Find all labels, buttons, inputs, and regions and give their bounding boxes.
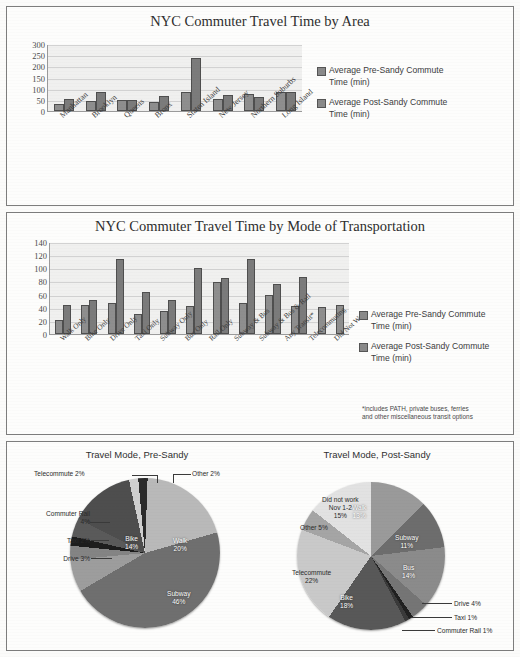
ytick-chart1-300: 300 — [32, 40, 45, 50]
pie-callout-taxi-pre: Taxi 2% — [35, 537, 90, 545]
pie-slice-label-subway-pre: Subway 46% — [167, 590, 190, 606]
ytick-chart2-120: 120 — [34, 251, 47, 261]
pie-slice-label-telecommute-post: Telecommute 22% — [292, 569, 331, 585]
legend-label-pre-sandy: Average Pre-Sandy Commute Time (min) — [329, 65, 457, 88]
legend-swatch-icon — [317, 67, 326, 76]
chart-title-mode: NYC Commuter Travel Time by Mode of Tran… — [7, 218, 513, 235]
legend-swatch-icon — [359, 343, 368, 352]
document-page: NYC Commuter Travel Time by Area 300 250… — [0, 0, 520, 657]
ytick-chart2-80: 80 — [39, 277, 48, 287]
legend-item-post-sandy: Average Post-Sandy Commute Time (min) — [359, 341, 499, 364]
xaxis-labels-chart2: Walk OnlyBike OnlyDrive OnlyTaxi OnlySub… — [50, 334, 349, 404]
xaxis-labels-chart1: ManhattanBrooklynQueensBronxStaten Islan… — [48, 111, 302, 171]
bar-group — [55, 243, 71, 334]
pie-callout-other-pre: Other 2% — [192, 470, 220, 478]
ytick-chart1-150: 150 — [32, 74, 45, 84]
ytick-chart1-250: 250 — [32, 51, 45, 61]
legend-label-post-sandy: Average Post-Sandy Commute Time (min) — [371, 341, 499, 364]
pie-slice-label-bus-post: Bus 14% — [402, 564, 415, 580]
ytick-chart2-140: 140 — [34, 238, 47, 248]
pie-slice-label-subway-post: Subway 11% — [395, 534, 418, 550]
pie-slice-label-other-post: Other 5% — [300, 524, 328, 532]
ytick-chart1-0: 0 — [41, 107, 45, 117]
pie-callout-taxi-post: Taxi 1% — [454, 614, 477, 622]
pie-slice-label-didnotwork-post: Did not work Nov 1-2 15% — [322, 496, 359, 521]
pie-title-pre-sandy: Travel Mode, Pre-Sandy — [37, 449, 237, 460]
ytick-chart2-100: 100 — [34, 264, 47, 274]
legend-swatch-icon — [359, 311, 368, 320]
legend-chart2: Average Pre-Sandy Commute Time (min) Ave… — [359, 309, 499, 373]
pie-callout-commuter-rail-post: Commuter Rail 1% — [437, 627, 492, 635]
ytick-chart1-50: 50 — [37, 96, 46, 106]
footnote-chart2: *includes PATH, private buses, ferries a… — [362, 405, 473, 422]
pie-callout-drive-post: Drive 4% — [454, 600, 481, 608]
legend-label-pre-sandy: Average Pre-Sandy Commute Time (min) — [371, 309, 499, 332]
footnote-line-1: *includes PATH, private buses, ferries — [362, 405, 473, 413]
chart-panel-travel-time-by-mode: NYC Commuter Travel Time by Mode of Tran… — [6, 212, 514, 435]
pie-slice-label-walk-pre: Walk 20% — [173, 537, 187, 553]
chart-title-area: NYC Commuter Travel Time by Area — [7, 13, 513, 30]
footnote-line-2: and other miscellaneous transit options — [362, 413, 473, 421]
ytick-chart2-0: 0 — [43, 330, 47, 340]
chart-panel-travel-time-by-area: NYC Commuter Travel Time by Area 300 250… — [6, 6, 514, 206]
pie-callout-drive-pre: Drive 3% — [27, 555, 90, 563]
pie-callout-telecommute-pre: Telecommute 2% — [34, 470, 85, 478]
ytick-chart2-20: 20 — [39, 317, 48, 327]
plot-area-chart2: 140 120 100 80 60 40 20 0 Walk OnlyBike … — [49, 243, 349, 335]
legend-chart1: Average Pre-Sandy Commute Time (min) Ave… — [317, 65, 457, 129]
ytick-chart1-100: 100 — [32, 85, 45, 95]
pie-title-post-sandy: Travel Mode, Post-Sandy — [277, 449, 477, 460]
legend-item-pre-sandy: Average Pre-Sandy Commute Time (min) — [359, 309, 499, 332]
chart-panel-travel-mode-pies: Travel Mode, Pre-Sandy Travel Mode, Post… — [6, 441, 514, 651]
ytick-chart1-200: 200 — [32, 62, 45, 72]
legend-item-post-sandy: Average Post-Sandy Commute Time (min) — [317, 97, 457, 120]
pie-chart-post-sandy — [297, 482, 445, 630]
pie-slice-label-bike-pre: Bike 14% — [125, 535, 138, 551]
plot-area-chart1: 300 250 200 150 100 50 0 ManhattanBrookl… — [47, 45, 302, 112]
pie-slice-label-bike-post: Bike 18% — [340, 594, 353, 610]
legend-item-pre-sandy: Average Pre-Sandy Commute Time (min) — [317, 65, 457, 88]
legend-swatch-icon — [317, 99, 326, 108]
ytick-chart2-40: 40 — [39, 304, 48, 314]
pie-callout-commuter-rail-pre: Commuter Rail 4% — [15, 510, 90, 526]
legend-label-post-sandy: Average Post-Sandy Commute Time (min) — [329, 97, 457, 120]
ytick-chart2-60: 60 — [39, 291, 48, 301]
pie-chart-pre-sandy — [70, 478, 220, 628]
